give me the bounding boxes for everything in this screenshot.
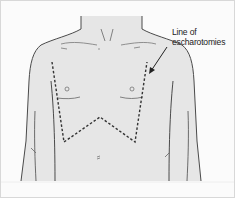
- sternal-notch: [98, 48, 100, 50]
- annotation-label: Line of escharotomies: [172, 27, 225, 47]
- figure-frame: Line of escharotomies: [0, 0, 235, 198]
- annotation-line-2: escharotomies: [172, 37, 225, 47]
